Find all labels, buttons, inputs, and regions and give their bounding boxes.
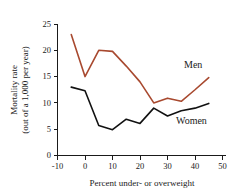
series-label-women: Women bbox=[176, 115, 207, 126]
y-axis-title-group: Mortality rate (out of a 1,000 per year) bbox=[9, 46, 30, 133]
x-tick-label-10: 10 bbox=[108, 161, 117, 171]
x-tick-label-20: 20 bbox=[136, 161, 145, 171]
x-axis-group: -10 0 10 20 30 40 50 Percent under- or o… bbox=[52, 156, 227, 189]
x-tick-label-50: 50 bbox=[218, 161, 227, 171]
y-tick-label-25: 25 bbox=[43, 19, 52, 29]
chart-plot-area: 0 5 10 15 20 25 -10 0 10 bbox=[0, 0, 231, 194]
y-axis-title-line2: (out of a 1,000 per year) bbox=[20, 46, 30, 133]
y-tick-label-10: 10 bbox=[43, 98, 52, 108]
x-tick-label-0: 0 bbox=[83, 161, 87, 171]
x-tick-label-neg10: -10 bbox=[52, 161, 63, 171]
x-axis-ticks bbox=[58, 156, 223, 160]
mortality-rate-chart: 0 5 10 15 20 25 -10 0 10 bbox=[0, 0, 231, 194]
y-tick-label-15: 15 bbox=[43, 71, 52, 81]
x-axis-title: Percent under- or overweight bbox=[89, 178, 195, 188]
y-axis-group: 0 5 10 15 20 25 bbox=[43, 19, 58, 161]
y-tick-label-5: 5 bbox=[47, 124, 51, 134]
x-tick-label-30: 30 bbox=[163, 161, 172, 171]
y-tick-label-0: 0 bbox=[47, 150, 51, 160]
x-axis-tick-labels: -10 0 10 20 30 40 50 bbox=[52, 161, 227, 171]
y-axis-title-line1: Mortality rate bbox=[9, 65, 19, 115]
series-label-men: Men bbox=[184, 59, 202, 70]
y-tick-label-20: 20 bbox=[43, 45, 52, 55]
y-axis-ticks bbox=[54, 24, 58, 156]
y-axis-tick-labels: 0 5 10 15 20 25 bbox=[43, 19, 52, 161]
x-tick-label-40: 40 bbox=[191, 161, 200, 171]
